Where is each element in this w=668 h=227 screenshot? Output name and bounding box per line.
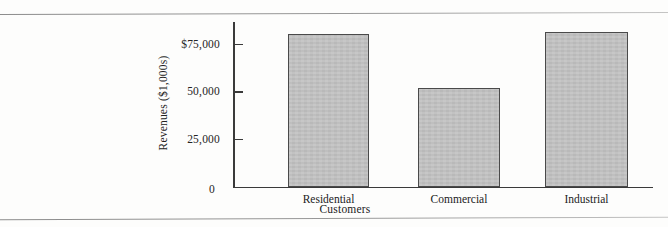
y-axis-line <box>233 22 235 188</box>
y-tick-25000: 25,000 <box>234 139 243 140</box>
bar-industrial: Industrial <box>545 32 628 188</box>
y-tick-label-50000: 50,000 <box>187 85 220 97</box>
y-tick-label-0: 0 <box>209 183 215 195</box>
plot-area: $75,000 50,000 25,000 0 Residential Comm… <box>233 22 653 188</box>
y-axis-title: Revenues ($1,000s) <box>157 28 173 178</box>
bar-commercial: Commercial <box>418 88 500 187</box>
page-rule-top <box>0 12 668 15</box>
x-axis-title: Customers <box>0 203 668 215</box>
page-rule-bottom <box>0 217 668 221</box>
figure-page: Revenues ($1,000s) $75,000 50,000 25,000… <box>0 0 668 227</box>
x-axis-title-text: Customers <box>320 203 371 215</box>
y-tick-label-25000: 25,000 <box>187 133 220 145</box>
y-tick-75000: $75,000 <box>234 44 243 45</box>
y-tick-label-75000: $75,000 <box>181 38 220 50</box>
y-tick-50000: 50,000 <box>234 91 243 92</box>
bar-residential: Residential <box>288 34 369 187</box>
